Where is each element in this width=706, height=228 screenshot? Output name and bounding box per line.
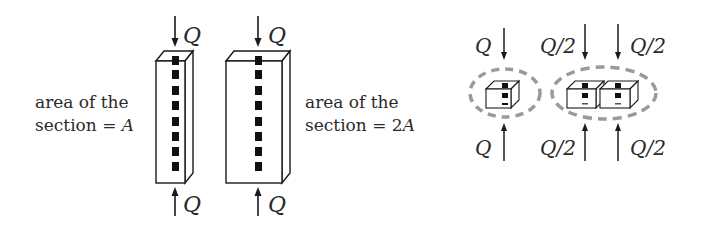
right-figure: Q Q Q/2 Q/2 bbox=[470, 24, 666, 161]
column-area-a: Q Q bbox=[156, 16, 201, 217]
arrowhead-down-icon bbox=[172, 38, 179, 47]
column-front-face bbox=[156, 61, 185, 183]
single-element: Q Q bbox=[470, 28, 540, 161]
force-label-top: Q bbox=[475, 34, 491, 58]
cube-front bbox=[567, 89, 596, 108]
label-a-line1: area of the bbox=[35, 92, 129, 112]
left-figure: area of the section = A Q bbox=[35, 16, 415, 217]
arrowhead-down-icon bbox=[255, 38, 262, 47]
arrowhead-down-icon bbox=[501, 52, 507, 60]
label-2a-line2: section = 2A bbox=[305, 115, 415, 135]
force-label-bottom: Q bbox=[268, 192, 286, 217]
arrowhead-down-icon bbox=[582, 52, 588, 60]
force-label-bottom-left: Q/2 bbox=[540, 136, 576, 160]
label-section-2a: area of the section = 2A bbox=[305, 92, 415, 135]
column-area-2a: Q Q bbox=[226, 16, 290, 217]
label-2a-line1: area of the bbox=[305, 92, 399, 112]
force-label-bottom-right: Q/2 bbox=[630, 136, 666, 160]
label-section-a: area of the section = A bbox=[35, 92, 134, 135]
cube-front bbox=[486, 89, 511, 108]
label-a-line2: section = A bbox=[35, 115, 134, 135]
column-side-face bbox=[185, 51, 193, 183]
arrowhead-down-icon bbox=[615, 52, 621, 60]
force-label-bottom: Q bbox=[475, 136, 491, 160]
force-label-top: Q bbox=[268, 23, 286, 48]
compression-diagram: area of the section = A Q bbox=[0, 0, 706, 228]
force-label-bottom: Q bbox=[183, 192, 201, 217]
element-pair: Q/2 Q/2 Q/2 bbox=[540, 24, 666, 161]
force-label-top-right: Q/2 bbox=[630, 34, 666, 58]
cube-front bbox=[600, 89, 630, 108]
column-front-face bbox=[226, 61, 282, 183]
force-label-top: Q bbox=[183, 23, 201, 48]
column-side-face bbox=[282, 51, 290, 183]
force-label-top-left: Q/2 bbox=[540, 34, 576, 58]
